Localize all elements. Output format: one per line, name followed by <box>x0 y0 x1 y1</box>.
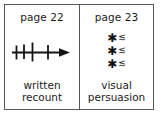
symbol-row: ✱ ≲ <box>107 32 126 44</box>
symbol-row: ✱ ≲ <box>107 45 126 57</box>
page-art-left <box>5 23 79 81</box>
page-number-label-right: page 23 <box>95 12 139 23</box>
star-bullet-icon: ✱ <box>107 58 117 70</box>
squiggle-mark-icon: ≲ <box>118 33 126 42</box>
squiggle-mark-icon: ≲ <box>118 59 126 68</box>
symbol-bullet-list: ✱ ≲ ✱ ≲ ✱ ≲ <box>107 32 126 70</box>
page-caption-right: visual persuasion <box>88 80 145 103</box>
two-page-spread-diagram: page 22 written recount <box>4 4 154 110</box>
page-caption-left-line2: recount <box>22 92 62 104</box>
page-caption-left: written recount <box>22 80 62 103</box>
page-number-label-left: page 22 <box>20 12 64 23</box>
page-caption-right-line2: persuasion <box>88 92 145 104</box>
page-art-right: ✱ ≲ ✱ ≲ ✱ ≲ <box>80 23 153 81</box>
page-caption-left-line1: written <box>22 80 62 92</box>
page-panel-left: page 22 written recount <box>5 5 79 109</box>
star-bullet-icon: ✱ <box>107 45 117 57</box>
star-bullet-icon: ✱ <box>107 32 117 44</box>
page-caption-right-line1: visual <box>88 80 145 92</box>
timeline-arrow-icon <box>11 40 73 62</box>
squiggle-mark-icon: ≲ <box>118 46 126 55</box>
page-panel-right: page 23 ✱ ≲ ✱ ≲ ✱ ≲ visual persuasion <box>79 5 153 109</box>
symbol-row: ✱ ≲ <box>107 58 126 70</box>
